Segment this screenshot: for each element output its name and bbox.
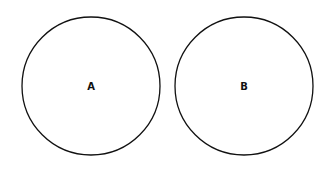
circle-a-label: A — [87, 81, 95, 92]
circle-b-label: B — [240, 81, 248, 92]
diagram-canvas: A B — [0, 0, 328, 171]
